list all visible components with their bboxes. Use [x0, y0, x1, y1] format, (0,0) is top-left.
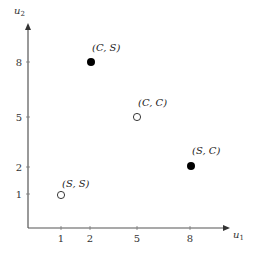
point-label-sc: (S, C) — [192, 145, 220, 156]
point-ss-hollow-marker — [57, 191, 64, 198]
y-tick-label: 5 — [16, 112, 22, 123]
point-label-ss: (S, S) — [62, 178, 90, 189]
point-cs-filled-marker — [87, 58, 95, 66]
x-ticks: 1 2 5 8 — [58, 226, 193, 244]
x-tick-label: 2 — [87, 233, 93, 244]
point-label-cs: (C, S) — [92, 42, 120, 53]
x-axis-arrow-icon — [223, 225, 230, 231]
y-tick-label: 2 — [16, 162, 22, 173]
y-tick-label: 8 — [16, 57, 22, 68]
x-axis-label: u1 — [233, 229, 244, 242]
y-axis-arrow-icon — [25, 23, 31, 30]
point-sc-filled-marker — [187, 162, 195, 170]
y-tick-label: 1 — [16, 189, 22, 200]
x-tick-label: 1 — [58, 233, 64, 244]
payoff-chart: u1 u2 1 2 5 8 1 2 5 8 (C, S) — [0, 0, 254, 254]
x-tick-label: 8 — [187, 233, 193, 244]
data-points: (C, S) (C, C) (S, C) (S, S) — [57, 42, 220, 199]
y-axis-label: u2 — [14, 5, 25, 18]
x-tick-label: 5 — [134, 233, 140, 244]
point-cc-hollow-marker — [133, 113, 140, 120]
chart-canvas: u1 u2 1 2 5 8 1 2 5 8 (C, S) — [0, 0, 254, 254]
point-label-cc: (C, C) — [138, 97, 167, 108]
